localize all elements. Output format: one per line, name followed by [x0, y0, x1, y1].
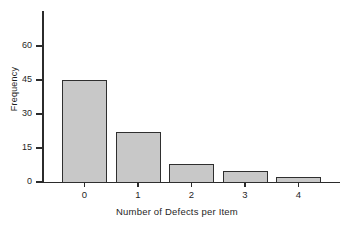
x-tick-mark	[137, 182, 138, 187]
x-tick-mark	[84, 182, 85, 187]
y-tick-mark	[36, 79, 43, 80]
y-tick-label: 15	[4, 142, 32, 152]
x-tick-mark	[191, 182, 192, 187]
x-tick-label: 1	[123, 189, 153, 200]
y-tick-mark	[36, 181, 43, 182]
x-tick-label: 0	[70, 189, 100, 200]
y-axis-label: Frequency	[9, 39, 19, 139]
y-axis-line	[42, 11, 44, 183]
x-axis-label: Number of Defects per Item	[42, 206, 312, 217]
histogram-figure: Frequency 015304560 01234 Number of Defe…	[0, 0, 352, 228]
y-tick-mark	[36, 45, 43, 46]
y-tick-label: 30	[4, 108, 32, 118]
x-tick-label: 2	[177, 189, 207, 200]
y-tick-label: 0	[4, 176, 32, 186]
y-tick-label: 60	[4, 40, 32, 50]
bar-2	[169, 164, 214, 183]
y-tick-mark	[36, 113, 43, 114]
y-tick-mark	[36, 147, 43, 148]
bar-0	[62, 80, 107, 183]
x-tick-mark	[298, 182, 299, 187]
bar-1	[116, 132, 161, 183]
x-tick-label: 3	[230, 189, 260, 200]
y-tick-label: 45	[4, 74, 32, 84]
x-tick-mark	[244, 182, 245, 187]
x-tick-label: 4	[284, 189, 314, 200]
